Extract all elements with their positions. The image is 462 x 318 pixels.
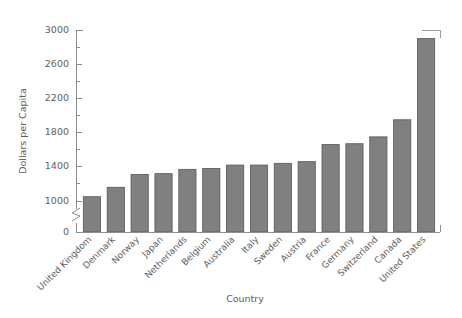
bar-japan (155, 174, 172, 232)
bar-united-kingdom (83, 197, 100, 232)
y-axis-title: Dollars per Capita (17, 88, 28, 174)
y-tick-label: 1400 (45, 160, 69, 171)
bar-france (322, 145, 339, 232)
bar-germany (346, 144, 363, 232)
bar-series (83, 39, 434, 232)
bar-australia (227, 165, 244, 232)
bar-austria (298, 162, 315, 232)
bar-switzerland (370, 137, 387, 232)
y-axis: 1000140018002200260030000 (45, 24, 83, 237)
plot-frame-corner (422, 30, 440, 38)
y-tick-label: 1000 (45, 195, 69, 206)
x-tick-label: Norway (110, 234, 142, 266)
x-tick-label: Austria (279, 234, 309, 264)
bar-netherlands (179, 169, 196, 232)
y-tick-label: 3000 (45, 24, 69, 35)
bar-italy (250, 165, 267, 232)
y-axis-break-icon (72, 208, 80, 221)
chart-canvas: 1000140018002200260030000 United Kingdom… (0, 0, 462, 318)
y-tick-label: 2600 (45, 58, 69, 69)
x-axis-title: Country (226, 293, 264, 304)
y-tick-label-zero: 0 (63, 226, 69, 237)
plot-frame (422, 30, 440, 38)
y-tick-label: 2200 (45, 92, 69, 103)
bar-denmark (107, 187, 124, 232)
x-tick-label: Italy (240, 234, 261, 255)
bar-norway (131, 175, 148, 233)
bar-sweden (274, 163, 291, 232)
bar-belgium (203, 169, 220, 232)
x-axis: United KingdomDenmarkNorwayJapanNetherla… (35, 225, 440, 293)
bar-canada (394, 120, 411, 232)
bar-united-states (417, 39, 434, 232)
bar-chart-figure: 1000140018002200260030000 United Kingdom… (0, 0, 462, 318)
y-tick-label: 1800 (45, 126, 69, 137)
